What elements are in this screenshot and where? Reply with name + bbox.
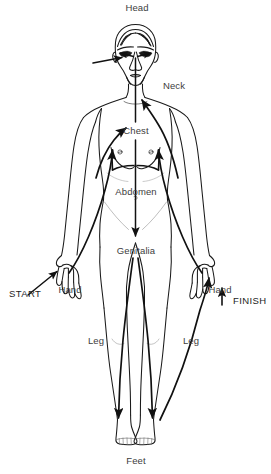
body-diagram-svg [0,0,271,474]
label-leg-right: Leg [183,336,199,346]
arrow-left-underbreast [113,166,134,171]
arrow-left-arm-up [69,150,113,273]
page-bottom-cutoff [0,470,271,474]
arrow-right-arm-up [159,150,203,273]
start-marker-label: START [9,289,41,299]
label-neck: Neck [163,81,185,91]
flow-arrows [28,53,222,420]
label-hand-right: Hand [208,285,231,295]
label-head: Head [125,3,148,13]
label-leg-left: Leg [88,336,104,346]
label-abdomen: Abdomen [115,187,156,197]
label-genitalia: Genitalia [117,246,155,256]
label-hand-left: Hand [58,285,81,295]
label-chest: Chest [123,126,148,136]
finish-marker-label: FINISH [233,296,267,306]
arrow-right-underbreast [138,166,159,171]
arrow-foot-to-right-hand [160,278,209,420]
label-feet: Feet [126,456,145,466]
diagram-canvas: Head Neck Chest Abdomen Genitalia Hand H… [0,0,271,474]
